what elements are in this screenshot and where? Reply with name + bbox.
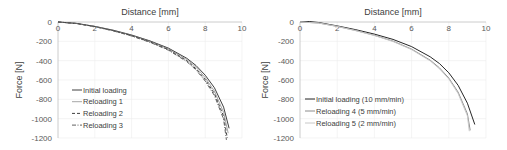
legend-label: Reloading 4 (5 mm/min) bbox=[316, 107, 397, 116]
y-axis-title: Force [N] bbox=[260, 61, 270, 98]
y-tick-label: -1200 bbox=[32, 134, 53, 143]
y-tick-label: -600 bbox=[36, 76, 53, 85]
x-tick-label: 10 bbox=[482, 24, 491, 33]
x-tick-label: 6 bbox=[166, 24, 171, 33]
legend: Initial loadingReloading 1Reloading 2Rel… bbox=[72, 86, 127, 130]
y-tick-label: -200 bbox=[36, 37, 53, 46]
y-tick-label: -1000 bbox=[274, 115, 295, 124]
legend: Initial loading (10 mm/min)Reloading 4 (… bbox=[305, 95, 404, 128]
x-tick-label: 10 bbox=[238, 24, 247, 33]
x-tick-label: 4 bbox=[372, 24, 377, 33]
chart-right-force-distance-rates: 0-200-400-600-800-1000-12000246810Distan… bbox=[253, 0, 507, 150]
legend-label: Initial loading bbox=[83, 86, 127, 95]
y-axis-title: Force [N] bbox=[14, 61, 24, 98]
x-tick-label: 0 bbox=[298, 24, 303, 33]
y-tick-label: -800 bbox=[278, 95, 295, 104]
legend-label: Initial loading (10 mm/min) bbox=[316, 95, 404, 104]
y-tick-label: 0 bbox=[48, 18, 53, 27]
y-tick-label: -1000 bbox=[32, 115, 53, 124]
x-tick-label: 0 bbox=[56, 24, 61, 33]
x-tick-label: 8 bbox=[203, 24, 208, 33]
y-tick-label: 0 bbox=[290, 18, 295, 27]
y-tick-label: -400 bbox=[278, 57, 295, 66]
legend-label: Reloading 2 bbox=[83, 109, 123, 118]
y-tick-label: -800 bbox=[36, 95, 53, 104]
x-tick-label: 4 bbox=[129, 24, 134, 33]
x-tick-label: 2 bbox=[93, 24, 98, 33]
x-tick-label: 8 bbox=[447, 24, 452, 33]
x-tick-label: 6 bbox=[409, 24, 414, 33]
y-tick-label: -200 bbox=[278, 37, 295, 46]
legend-label: Reloading 1 bbox=[83, 97, 123, 106]
legend-label: Reloading 5 (2 mm/min) bbox=[316, 119, 397, 128]
y-tick-label: -600 bbox=[278, 76, 295, 85]
chart-left-force-distance: 0-200-400-600-800-1000-12000246810Distan… bbox=[0, 0, 253, 150]
x-axis-title: Distance [mm] bbox=[121, 7, 179, 17]
x-axis-title: Distance [mm] bbox=[364, 7, 422, 17]
y-tick-label: -400 bbox=[36, 57, 53, 66]
figure: 0-200-400-600-800-1000-12000246810Distan… bbox=[0, 0, 507, 150]
y-tick-label: -1200 bbox=[274, 134, 295, 143]
legend-label: Reloading 3 bbox=[83, 121, 123, 130]
